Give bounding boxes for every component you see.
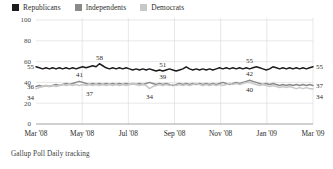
legend-swatch-democrats-icon: [140, 4, 147, 11]
point-label-republicans: 58: [96, 54, 104, 62]
legend-swatch-independents-icon: [75, 4, 82, 11]
point-label-independents: 42: [246, 70, 254, 78]
legend-item-democrats: Democrats: [140, 3, 184, 12]
legend-swatch-republicans-icon: [12, 4, 19, 11]
point-label-independents: 37: [316, 82, 324, 90]
x-tick-label: Mar '09: [302, 129, 325, 138]
point-label-democrats: 37: [86, 90, 94, 98]
gridlines-vertical: [82, 18, 313, 124]
point-label-republicans: 55: [316, 63, 324, 71]
y-tick-label: 0: [28, 120, 32, 128]
chart-legend: Republicans Independents Democrats: [12, 3, 184, 12]
point-label-democrats: 40: [246, 86, 254, 94]
point-label-independents: 39: [159, 73, 167, 81]
legend-item-republicans: Republicans: [12, 3, 61, 12]
legend-label-independents: Independents: [86, 3, 127, 12]
x-tick-label: Sep '08: [164, 129, 186, 138]
legend-label-democrats: Democrats: [151, 3, 184, 12]
data-point-labels: 553634584137513934554240553734: [27, 54, 324, 102]
y-axis: 020406080100: [21, 16, 314, 128]
gallup-party-affiliation-chart: Republicans Independents Democrats 02040…: [0, 0, 333, 169]
point-label-independents: 36: [27, 83, 35, 91]
point-label-independents: 41: [76, 71, 84, 79]
point-label-republicans: 55: [246, 57, 254, 65]
x-tick-label: Mar '08: [25, 129, 48, 138]
plot-area: 020406080100 Mar '08May '08Jul '08Sep '0…: [0, 14, 333, 150]
legend-item-independents: Independents: [75, 3, 127, 12]
legend-label-republicans: Republicans: [23, 3, 61, 12]
point-label-republicans: 55: [27, 63, 35, 71]
chart-source-caption: Gallup Poll Daily tracking: [11, 150, 90, 158]
x-tick-label: Jul '08: [119, 129, 138, 138]
x-tick-label: Nov '08: [209, 129, 233, 138]
point-label-republicans: 51: [159, 61, 167, 69]
point-label-democrats: 34: [27, 94, 35, 102]
x-tick-label: May '08: [70, 129, 94, 138]
point-label-democrats: 34: [146, 93, 154, 101]
y-tick-label: 80: [24, 37, 32, 45]
point-label-democrats: 34: [316, 93, 324, 101]
x-tick-label: Jan '09: [257, 129, 278, 138]
x-axis: Mar '08May '08Jul '08Sep '08Nov '08Jan '…: [25, 129, 325, 138]
y-tick-label: 100: [21, 16, 32, 24]
